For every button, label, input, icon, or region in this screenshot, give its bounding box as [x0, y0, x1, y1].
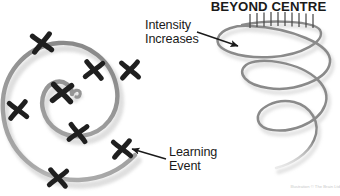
- credit-line: Illustration © The Brain Ltd: [236, 184, 340, 189]
- page-title: BEYOND CENTRE: [197, 0, 340, 14]
- figure-beyond-centre: BEYOND CENTRE Intensity Increases Learni…: [0, 0, 340, 196]
- label-learning-event: Learning Event: [169, 146, 217, 173]
- arrow-learning-event: [132, 149, 166, 159]
- label-intensity-increases: Intensity Increases: [145, 19, 199, 46]
- arrow-intensity: [197, 32, 238, 46]
